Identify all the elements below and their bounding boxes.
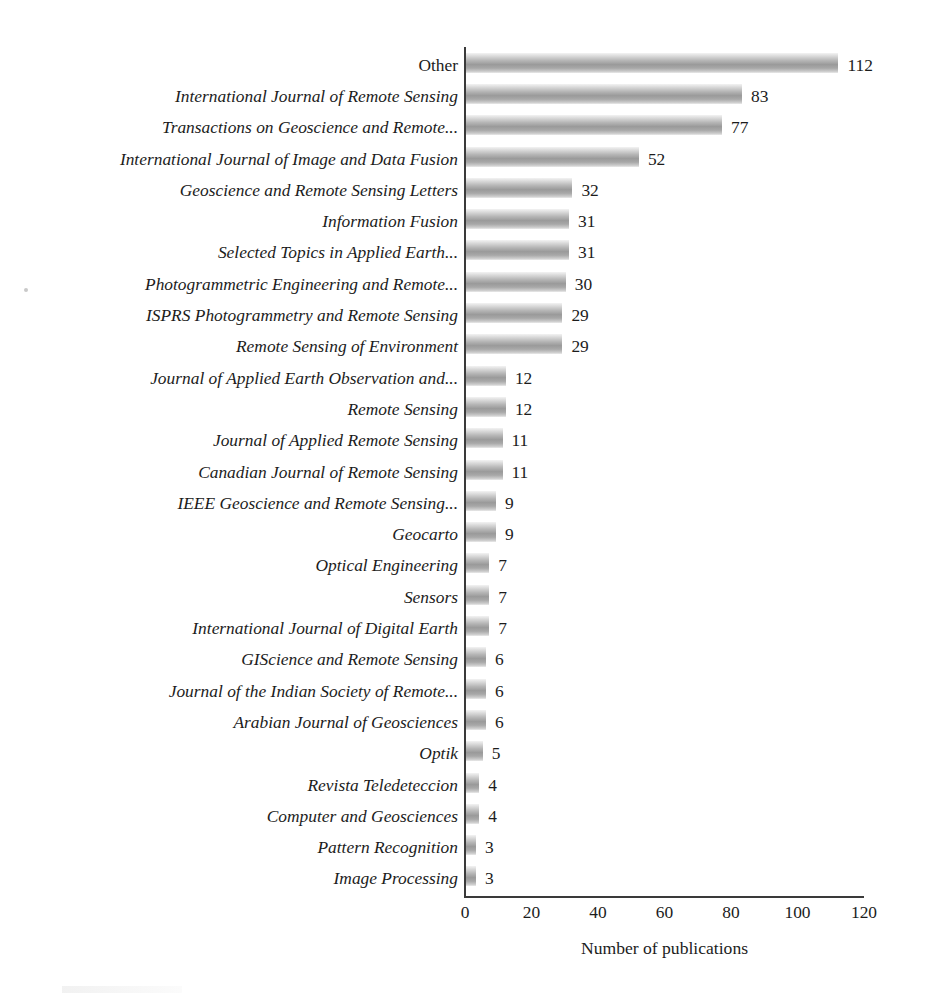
x-tick-label: 20: [502, 902, 562, 923]
category-label: ISPRS Photogrammetry and Remote Sensing: [0, 305, 458, 326]
bar-value-label: 31: [578, 242, 595, 263]
bar: [466, 804, 479, 824]
bar-row: International Journal of Image and Data …: [0, 141, 929, 172]
bar-value-label: 9: [505, 493, 514, 514]
bar-value-label: 7: [498, 555, 507, 576]
bar: [466, 115, 722, 135]
bar-value-label: 7: [498, 587, 507, 608]
category-label: Computer and Geosciences: [0, 806, 458, 827]
category-label: GIScience and Remote Sensing: [0, 649, 458, 670]
bar: [466, 272, 566, 292]
bar-value-label: 4: [488, 775, 497, 796]
bar-value-label: 83: [751, 86, 768, 107]
bar: [466, 428, 503, 448]
bar-row: Sensors7: [0, 579, 929, 610]
bar: [466, 209, 569, 229]
bar-row: Image Processing3: [0, 861, 929, 892]
bar: [466, 647, 486, 667]
bar-row: IEEE Geoscience and Remote Sensing...9: [0, 485, 929, 516]
category-label: Revista Teledeteccion: [0, 775, 458, 796]
bar-value-label: 32: [581, 180, 598, 201]
category-label: Transactions on Geoscience and Remote...: [0, 117, 458, 138]
bar: [466, 585, 489, 605]
category-label: Other: [0, 55, 458, 76]
bar: [466, 303, 562, 323]
bar: [466, 491, 496, 511]
category-label: Selected Topics in Applied Earth...: [0, 242, 458, 263]
category-label: International Journal of Remote Sensing: [0, 86, 458, 107]
category-label: Sensors: [0, 587, 458, 608]
category-label: Image Processing: [0, 868, 458, 889]
bar-row: Photogrammetric Engineering and Remote..…: [0, 266, 929, 297]
bar-row: Remote Sensing of Environment29: [0, 329, 929, 360]
x-tick-label: 100: [768, 902, 828, 923]
category-label: International Journal of Digital Earth: [0, 618, 458, 639]
category-label: Arabian Journal of Geosciences: [0, 712, 458, 733]
bar: [466, 741, 483, 761]
x-tick-label: 120: [834, 902, 894, 923]
bar-value-label: 12: [515, 399, 532, 420]
bar: [466, 460, 503, 480]
category-label: Pattern Recognition: [0, 837, 458, 858]
bar: [466, 178, 572, 198]
bar-row: ISPRS Photogrammetry and Remote Sensing2…: [0, 297, 929, 328]
bar-row: Other112: [0, 47, 929, 78]
bar-value-label: 12: [515, 368, 532, 389]
bar: [466, 679, 486, 699]
category-label: Geocarto: [0, 524, 458, 545]
category-label: IEEE Geoscience and Remote Sensing...: [0, 493, 458, 514]
category-label: Remote Sensing: [0, 399, 458, 420]
cropped-caption-sliver: [62, 986, 182, 993]
bar: [466, 616, 489, 636]
bar: [466, 147, 639, 167]
bar: [466, 835, 476, 855]
bar-row: Arabian Journal of Geosciences6: [0, 704, 929, 735]
bar-row: Journal of Applied Earth Observation and…: [0, 360, 929, 391]
bar: [466, 334, 562, 354]
bar-value-label: 29: [571, 336, 588, 357]
bar-row: Selected Topics in Applied Earth...31: [0, 235, 929, 266]
bar: [466, 84, 742, 104]
bar-value-label: 3: [485, 868, 494, 889]
bar: [466, 522, 496, 542]
bar-row: Geocarto9: [0, 517, 929, 548]
bar-value-label: 6: [495, 712, 504, 733]
bar-row: Revista Teledeteccion4: [0, 767, 929, 798]
bar: [466, 553, 489, 573]
bar-value-label: 31: [578, 211, 595, 232]
bar-row: GIScience and Remote Sensing6: [0, 642, 929, 673]
x-tick-label: 80: [701, 902, 761, 923]
category-label: Remote Sensing of Environment: [0, 336, 458, 357]
bar-value-label: 52: [648, 149, 665, 170]
category-label: Optik: [0, 743, 458, 764]
category-label: Journal of the Indian Society of Remote.…: [0, 681, 458, 702]
bar-row: Optik5: [0, 736, 929, 767]
bar-value-label: 77: [731, 117, 748, 138]
category-label: Journal of Applied Earth Observation and…: [0, 368, 458, 389]
x-tick-label: 60: [635, 902, 695, 923]
bar-row: Information Fusion31: [0, 204, 929, 235]
bar-row: Canadian Journal of Remote Sensing11: [0, 454, 929, 485]
bar-value-label: 9: [505, 524, 514, 545]
bar-value-label: 6: [495, 681, 504, 702]
bar-value-label: 29: [571, 305, 588, 326]
bar-value-label: 6: [495, 649, 504, 670]
category-label: Optical Engineering: [0, 555, 458, 576]
publications-bar-chart: Other112International Journal of Remote …: [0, 0, 929, 999]
bar-row: Transactions on Geoscience and Remote...…: [0, 110, 929, 141]
bar: [466, 53, 838, 73]
bar: [466, 397, 506, 417]
bar: [466, 240, 569, 260]
bar: [466, 773, 479, 793]
bar-value-label: 30: [575, 274, 592, 295]
category-label: International Journal of Image and Data …: [0, 149, 458, 170]
bar-value-label: 11: [512, 462, 529, 483]
bar-row: Computer and Geosciences4: [0, 798, 929, 829]
category-label: Photogrammetric Engineering and Remote..…: [0, 274, 458, 295]
bar-row: International Journal of Remote Sensing8…: [0, 78, 929, 109]
x-axis-line: [464, 896, 864, 898]
x-axis-title: Number of publications: [465, 938, 864, 959]
category-label: Journal of Applied Remote Sensing: [0, 430, 458, 451]
category-label: Information Fusion: [0, 211, 458, 232]
x-tick-label: 40: [568, 902, 628, 923]
